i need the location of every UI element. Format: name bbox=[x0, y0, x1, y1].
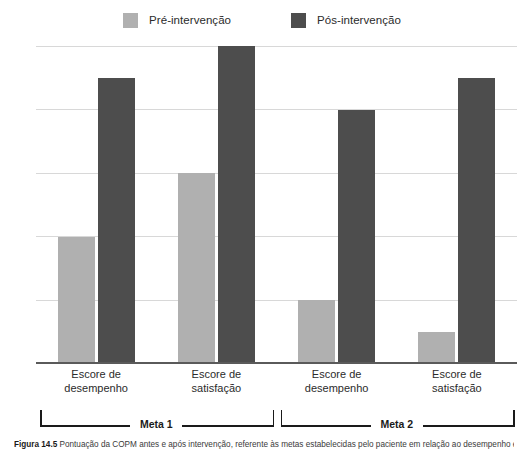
caption-figure-number: Figura 14.5 bbox=[14, 440, 57, 449]
x-axis-category-label: Escore dedesempenho bbox=[36, 368, 156, 395]
x-axis-category-label-line: Escore de bbox=[277, 368, 397, 382]
x-axis-category-label: Escore desatisfação bbox=[156, 368, 276, 395]
legend-label-pos: Pós-intervenção bbox=[317, 14, 401, 26]
x-axis-category-label: Escore desatisfação bbox=[397, 368, 517, 395]
bar bbox=[98, 78, 135, 364]
legend-label-pre: Pré-intervenção bbox=[149, 14, 231, 26]
x-axis-category-label: Escore dedesempenho bbox=[277, 368, 397, 395]
group-bracket-label: Meta 2 bbox=[375, 418, 418, 430]
group-bracket-rule bbox=[423, 425, 513, 427]
x-axis-category-label-line: Escore de bbox=[156, 368, 276, 382]
x-axis-category-label-line: Escore de bbox=[36, 368, 156, 382]
x-axis-category-label-line: satisfação bbox=[397, 382, 517, 396]
figure-caption: Figura 14.5 Pontuação da COPM antes e ap… bbox=[14, 440, 514, 450]
bar bbox=[178, 173, 215, 364]
group-brackets: Meta 1Meta 2 bbox=[36, 404, 517, 434]
bar bbox=[338, 110, 375, 364]
x-axis-category-label-line: desempenho bbox=[36, 382, 156, 396]
chart-legend: Pré-intervenção Pós-intervenção bbox=[0, 9, 524, 31]
bar bbox=[298, 300, 335, 364]
bar bbox=[58, 237, 95, 364]
bar-series-container bbox=[36, 46, 517, 364]
group-bracket-rule bbox=[281, 425, 371, 427]
x-axis-category-label-line: satisfação bbox=[156, 382, 276, 396]
legend-swatch-icon bbox=[123, 13, 138, 28]
group-bracket-tick bbox=[281, 410, 283, 427]
bar bbox=[218, 46, 255, 364]
caption-text: Pontuação da COPM antes e após intervenç… bbox=[60, 440, 514, 449]
plot-area: 0246810 bbox=[36, 46, 517, 364]
bar bbox=[418, 332, 455, 364]
bar bbox=[458, 78, 495, 364]
x-axis-category-label-line: Escore de bbox=[397, 368, 517, 382]
x-axis-line bbox=[36, 362, 517, 364]
x-axis-category-label-line: desempenho bbox=[277, 382, 397, 396]
x-axis-category-labels: Escore dedesempenhoEscore desatisfaçãoEs… bbox=[36, 368, 517, 402]
legend-item-pre: Pré-intervenção bbox=[123, 13, 231, 28]
legend-item-pos: Pós-intervenção bbox=[291, 13, 401, 28]
group-bracket: Meta 2 bbox=[36, 404, 517, 432]
legend-swatch-icon bbox=[291, 13, 306, 28]
group-bracket-tick bbox=[513, 410, 515, 427]
figure-container: Pré-intervenção Pós-intervenção 0246810 … bbox=[0, 0, 524, 452]
